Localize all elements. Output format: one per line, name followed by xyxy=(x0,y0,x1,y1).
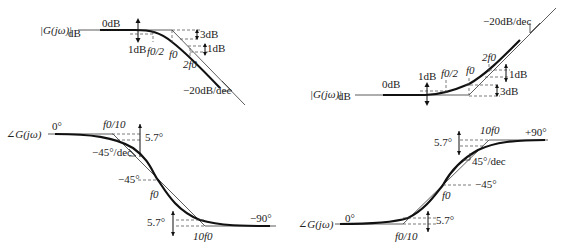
lp-top-deg-label: 5.7° xyxy=(145,131,163,143)
lp-phase-zero-label: 0° xyxy=(52,120,62,132)
lp-phase-f0-label: f0 xyxy=(150,188,159,200)
lp-f0-tenth-label: f0/10 xyxy=(103,118,126,130)
highpass-phase-plot: ∠G(jω) 0° f0/10 5.7° f0 −45° 45°/dec 5.7… xyxy=(298,124,548,242)
lp-2f0-label: 2f0 xyxy=(183,58,198,70)
lp-mag-zero-label: 0dB xyxy=(102,17,120,29)
hp-f0-label: f0 xyxy=(466,64,475,76)
hp-top-deg-label: 5.7° xyxy=(434,136,452,148)
lp-bottom-deg-label: 5.7° xyxy=(147,216,165,228)
lp-10f0-label: 10f0 xyxy=(193,230,213,242)
lp-1db-label: 1dB xyxy=(128,43,146,55)
hp-mag-axis-sub: dB xyxy=(338,90,351,102)
hp-f0-half-label: f0/2 xyxy=(441,67,459,79)
lowpass-phase-plot: ∠G(jω) 0° f0/10 5.7° −45°/dec −45° f0 5.… xyxy=(6,118,276,242)
lp-slope-label: −20dB/dec xyxy=(183,84,231,96)
lp-phase-axis-label: ∠G(jω) xyxy=(6,128,42,141)
hp-10f0-label: 10f0 xyxy=(480,124,500,136)
hp-phase-slope-label: 45°/dec xyxy=(472,155,506,167)
hp-bottom-deg-label: 5.7° xyxy=(436,214,454,226)
hp-f0-tenth-label: f0/10 xyxy=(395,230,418,242)
hp-phase-curve xyxy=(340,140,545,224)
lp-mag-axis-sub: dB xyxy=(68,27,81,39)
lp-1db-right-label: 1dB xyxy=(207,42,225,54)
highpass-magnitude-plot: |G(jω)| dB 0dB 1dB f0/2 f0 2f0 1dB 3dB −… xyxy=(310,8,556,106)
hp-1db-left-label: 1dB xyxy=(418,70,436,82)
lp-f0-half-label: f0/2 xyxy=(147,45,165,57)
hp-mid-deg-label: −45° xyxy=(475,178,497,190)
lp-3db-label: 3dB xyxy=(200,28,218,40)
lp-end-label: −90° xyxy=(250,212,272,224)
hp-phase-axis-label: ∠G(jω) xyxy=(298,218,334,231)
hp-phase-f0-label: f0 xyxy=(442,189,451,201)
hp-mag-zero-label: 0dB xyxy=(382,78,400,90)
hp-phase-zero-label: 0° xyxy=(345,212,355,224)
lp-f0-label: f0 xyxy=(169,48,178,60)
hp-2f0-label: 2f0 xyxy=(482,51,497,63)
lp-phase-curve xyxy=(55,134,270,226)
hp-end-label: +90° xyxy=(525,126,547,138)
hp-1db-right-label: 1dB xyxy=(509,68,527,80)
lp-mid-deg-label: −45° xyxy=(118,173,140,185)
hp-3db-label: 3dB xyxy=(500,85,518,97)
lp-phase-slope-label: −45°/dec xyxy=(92,146,132,158)
bode-diagrams: |G(jω)| dB 0dB 1dB f0/2 f0 3dB 1dB 2f0 −… xyxy=(0,0,564,252)
hp-slope-triangle xyxy=(530,23,540,33)
hp-slope-label: −20dB/dec xyxy=(483,15,531,27)
lowpass-magnitude-plot: |G(jω)| dB 0dB 1dB f0/2 f0 3dB 1dB 2f0 −… xyxy=(40,17,245,105)
